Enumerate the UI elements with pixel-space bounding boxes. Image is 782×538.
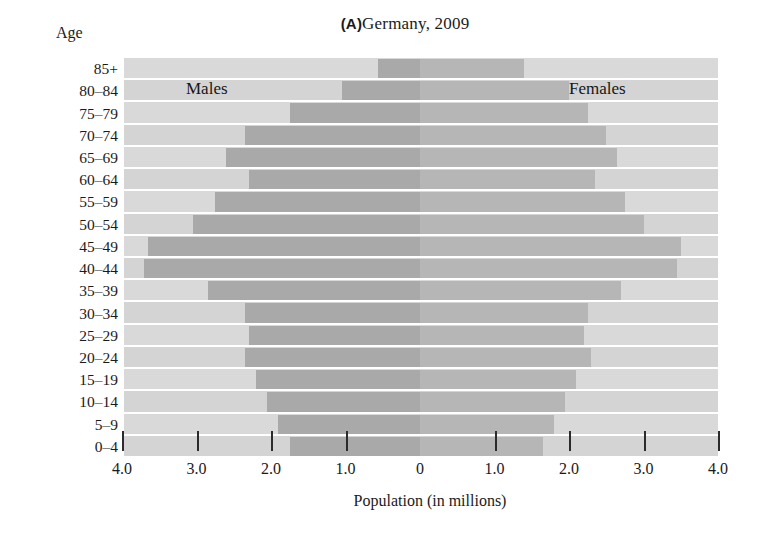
series-label-males: Males (186, 79, 228, 99)
y-tick-label: 20–24 (38, 350, 118, 366)
bar-female (420, 81, 569, 100)
y-tick-label: 75–79 (38, 106, 118, 122)
bar-female (420, 303, 588, 322)
y-tick-label: 35–39 (38, 283, 118, 299)
bar-male (193, 215, 420, 234)
x-axis-tick-labels: 4.03.02.01.001.02.03.04.0 (0, 460, 782, 484)
x-tick-label: 0 (416, 460, 424, 478)
y-tick-label: 40–44 (38, 261, 118, 277)
x-tick-mark (644, 431, 646, 451)
y-tick-label: 0–4 (38, 439, 118, 455)
bar-female (420, 281, 621, 300)
bar-female (420, 192, 625, 211)
x-axis-title-text: Population (in millions) (354, 492, 507, 510)
bar-male (245, 126, 420, 145)
bar-male (256, 370, 420, 389)
bar-female (420, 103, 588, 122)
x-tick-mark (271, 431, 273, 451)
bar-male (226, 148, 420, 167)
pyramid-row (122, 125, 718, 147)
y-tick-label: 45–49 (38, 239, 118, 255)
pyramid-row (122, 102, 718, 124)
y-axis-tick-labels: 85+80–8475–7970–7465–6960–6455–5950–5445… (34, 58, 118, 458)
x-tick-label: 4.0 (708, 460, 728, 478)
plot-area (122, 58, 718, 458)
bar-female (420, 392, 565, 411)
x-tick-label: 1.0 (485, 460, 505, 478)
bar-male (245, 348, 420, 367)
pyramid-row (122, 169, 718, 191)
y-tick-label: 50–54 (38, 217, 118, 233)
bar-male (290, 103, 420, 122)
y-tick-label: 80–84 (38, 83, 118, 99)
chart-title: (A)Germany, 2009 (260, 14, 550, 34)
y-tick-label: 85+ (38, 61, 118, 77)
bar-male (378, 59, 420, 78)
bar-female (420, 148, 617, 167)
y-tick-label: 5–9 (38, 417, 118, 433)
bar-male (249, 326, 420, 345)
bar-male (249, 170, 420, 189)
pyramid-row (122, 347, 718, 369)
bar-male (342, 81, 420, 100)
x-tick-mark (569, 431, 571, 451)
bar-male (267, 392, 420, 411)
bar-female (420, 59, 524, 78)
bar-female (420, 259, 677, 278)
pyramid-row (122, 147, 718, 169)
pyramid-row (122, 258, 718, 280)
age-axis-label: Age (56, 24, 83, 42)
bar-female (420, 126, 606, 145)
chart-title-text: Germany, 2009 (362, 14, 469, 33)
pyramid-row (122, 325, 718, 347)
pyramid-row (122, 191, 718, 213)
bar-female (420, 215, 644, 234)
bar-female (420, 170, 595, 189)
panel-letter: (A) (341, 15, 362, 32)
bar-female (420, 326, 584, 345)
bar-female (420, 348, 591, 367)
bar-male (148, 237, 420, 256)
series-label-females: Females (569, 79, 626, 99)
y-tick-label: 65–69 (38, 150, 118, 166)
center-axis-line (122, 58, 124, 458)
pyramid-row (122, 236, 718, 258)
y-tick-label: 60–64 (38, 172, 118, 188)
x-tick-label: 2.0 (261, 460, 281, 478)
y-tick-label: 25–29 (38, 328, 118, 344)
x-tick-mark (495, 431, 497, 451)
x-tick-label: 1.0 (336, 460, 356, 478)
bar-male (215, 192, 420, 211)
pyramid-row (122, 302, 718, 324)
x-tick-mark (122, 431, 124, 451)
y-tick-label: 10–14 (38, 394, 118, 410)
x-axis-tick-marks (122, 431, 718, 457)
x-tick-label: 3.0 (634, 460, 654, 478)
bar-male (208, 281, 420, 300)
bar-male (144, 259, 420, 278)
x-tick-mark (718, 431, 720, 451)
x-tick-label: 2.0 (559, 460, 579, 478)
x-tick-label: 4.0 (112, 460, 132, 478)
y-tick-label: 55–59 (38, 194, 118, 210)
y-tick-label: 70–74 (38, 128, 118, 144)
y-tick-label: 30–34 (38, 306, 118, 322)
pyramid-row (122, 58, 718, 80)
pyramid-row (122, 214, 718, 236)
pyramid-row (122, 391, 718, 413)
x-tick-mark (346, 431, 348, 451)
pyramid-row (122, 369, 718, 391)
x-tick-label: 3.0 (187, 460, 207, 478)
pyramid-row (122, 280, 718, 302)
y-tick-label: 15–19 (38, 372, 118, 388)
bar-male (245, 303, 420, 322)
population-pyramid-figure: Age (A)Germany, 2009 85+80–8475–7970–746… (0, 0, 782, 538)
x-tick-mark (197, 431, 199, 451)
bar-female (420, 237, 681, 256)
bar-female (420, 370, 576, 389)
x-axis-title: Population (in millions) (0, 492, 782, 510)
